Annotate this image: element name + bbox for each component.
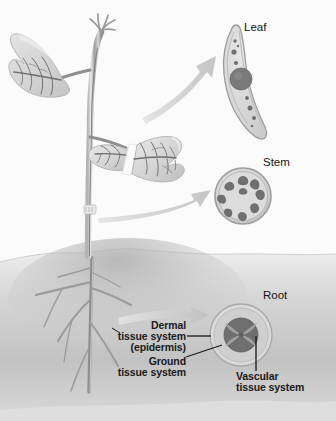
stem-cut-band: [84, 205, 96, 214]
leaf-upper-blade: [9, 34, 70, 97]
leaf-lower-right-half: [132, 136, 184, 181]
leaf-midrib-highlight: [234, 72, 242, 80]
leaf-midrib-bundle: [230, 68, 252, 90]
leaf-upper: [9, 34, 70, 97]
apical-bud: [90, 14, 115, 33]
leaf-arrow: [142, 56, 216, 124]
callout-vascular-line2: tissue system: [236, 382, 304, 394]
petiole-upper: [61, 70, 90, 78]
organ-label-stem: Stem: [263, 157, 290, 169]
organ-label-leaf: Leaf: [244, 22, 266, 34]
leaf-cross-section: [223, 25, 266, 139]
root-cross-section: [210, 304, 272, 366]
callout-ground-line2: tissue system: [98, 367, 186, 379]
callout-dermal-line3: (epidermis): [98, 342, 186, 354]
organ-label-root: Root: [263, 290, 287, 302]
plant-shoot: [9, 14, 185, 256]
plant-tissue-systems-diagram: Leaf Stem Root Dermal tissue system (epi…: [0, 0, 336, 421]
stem-cross-section: [215, 168, 271, 224]
root-stele-center: [239, 333, 244, 338]
stem-arrow: [98, 190, 211, 223]
